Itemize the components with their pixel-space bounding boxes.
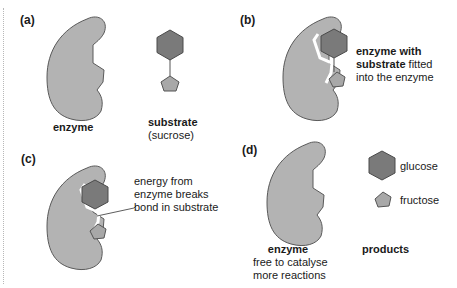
- panel-label-c: (c): [21, 153, 36, 166]
- caption-c-line-3: bond in substrate: [134, 201, 218, 214]
- panel-label-d: (d): [242, 144, 257, 157]
- caption-b-bold-1: enzyme with: [356, 45, 421, 57]
- enzyme-caption-d: enzyme: [253, 243, 323, 256]
- fructose-product-d: [375, 192, 391, 207]
- glucose-label: glucose: [400, 160, 438, 173]
- substrate-sucrose-a: [157, 30, 183, 91]
- glucose-product-d: [369, 151, 395, 180]
- enzyme-shape-d: [267, 142, 325, 246]
- caption-b-rest-2: fitted: [406, 58, 433, 70]
- enzyme-action-diagram: (a) (b) (c) (d) enzyme substrate (sucros…: [0, 0, 457, 288]
- caption-b-line-3: into the enzyme: [356, 71, 434, 84]
- panel-label-a: (a): [20, 14, 35, 27]
- enzyme-sub-caption-d-2: more reactions: [253, 269, 323, 282]
- panel-label-b: (b): [240, 14, 255, 27]
- enzyme-shape-a: [47, 17, 105, 121]
- substrate-caption-a: substrate: [148, 116, 194, 129]
- caption-b-bold-2: substrate: [356, 58, 406, 70]
- caption-c-line-2: enzyme breaks: [134, 188, 209, 201]
- caption-b-line-1: enzyme with: [356, 45, 421, 58]
- enzyme-caption-a: enzyme: [53, 121, 93, 134]
- products-caption: products: [362, 243, 409, 256]
- substrate-sub-caption-a: (sucrose): [148, 129, 194, 142]
- fructose-label: fructose: [400, 194, 439, 207]
- enzyme-sub-caption-d-1: free to catalyse: [253, 256, 323, 269]
- caption-b-line-2: substrate fitted: [356, 58, 432, 71]
- caption-c-line-1: energy from: [134, 175, 193, 188]
